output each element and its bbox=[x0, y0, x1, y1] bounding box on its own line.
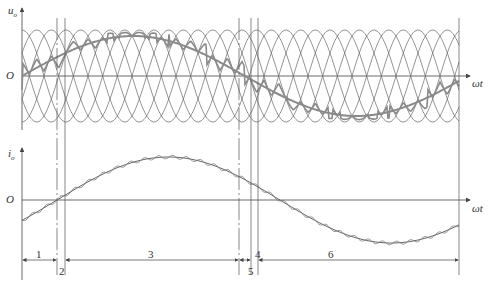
y-label-sub: o bbox=[11, 154, 15, 162]
top-plot bbox=[22, 8, 470, 130]
top-x-axis-label: ωt bbox=[472, 78, 483, 89]
interval-dividers bbox=[57, 18, 459, 275]
bottom-x-axis-label: ωt bbox=[472, 203, 483, 214]
interval-label-6: 6 bbox=[328, 249, 334, 260]
interval-label-1: 1 bbox=[36, 249, 42, 260]
interval-label-3: 3 bbox=[148, 249, 154, 260]
cycloconverter-waveform-diagram bbox=[0, 0, 492, 285]
top-origin-label: O bbox=[6, 70, 14, 81]
interval-label-2: 2 bbox=[59, 266, 65, 277]
bottom-y-axis-label: io bbox=[8, 148, 15, 162]
top-y-axis-label: uo bbox=[8, 5, 17, 19]
bottom-origin-label: O bbox=[6, 194, 14, 205]
interval-label-4: 4 bbox=[255, 249, 261, 260]
y-label-sub: o bbox=[14, 11, 18, 19]
interval-label-5: 5 bbox=[248, 266, 254, 277]
